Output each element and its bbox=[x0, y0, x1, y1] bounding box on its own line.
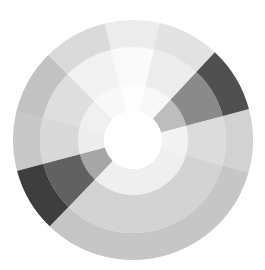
center-hole bbox=[104, 111, 162, 169]
sunburst-segment-6-outer bbox=[13, 110, 43, 171]
sunburst-segment-3-outer bbox=[222, 109, 253, 174]
sunburst-segment-0-outer bbox=[104, 20, 161, 50]
sunburst-chart bbox=[0, 0, 265, 270]
sunburst-svg bbox=[0, 0, 265, 270]
